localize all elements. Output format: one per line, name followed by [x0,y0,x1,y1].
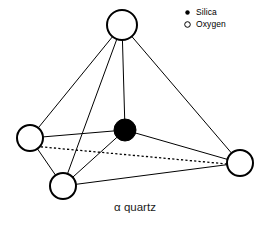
atom-oxygen-left [17,125,43,151]
open-circle-marker [183,20,192,29]
figure-caption: α quartz [0,200,270,214]
atom-oxygen-top [107,10,137,40]
bond-oxygen-left-silica-center [30,130,125,138]
bond-oxygen-bottom-oxygen-right [63,163,240,186]
alpha-quartz-figure: Silica Oxygen α quartz [0,0,270,226]
legend: Silica Oxygen [183,7,265,31]
atom-oxygen-right [227,150,253,176]
bond-group [30,25,240,186]
legend-item-oxygen: Oxygen [183,19,265,30]
bond-oxygen-top-oxygen-right [122,25,240,163]
bond-oxygen-top-oxygen-left [30,25,122,138]
legend-item-silica: Silica [183,7,265,18]
bond-silica-center-oxygen-right [125,130,240,163]
tetrahedron-diagram [0,0,270,226]
bond-oxygen-left-oxygen-right-hidden [32,146,238,165]
atom-oxygen-bottom [50,173,76,199]
atom-silica-center [114,119,136,141]
bond-oxygen-top-oxygen-bottom [63,25,122,186]
legend-label-oxygen: Oxygen [196,20,226,29]
filled-dot-marker [183,8,192,17]
legend-label-silica: Silica [196,8,217,17]
